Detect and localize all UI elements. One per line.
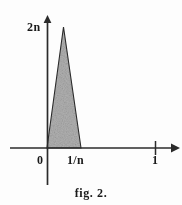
y-axis-label-2n: 2n (27, 21, 41, 33)
x-axis-label-one: 1 (152, 154, 158, 166)
spike-area-fill (44, 24, 86, 150)
figure-container: 2n 0 1/n 1 fig. 2. (0, 0, 182, 205)
figure-caption: fig. 2. (0, 186, 182, 201)
x-axis-label-one-over-n: 1/n (67, 154, 84, 166)
origin-label: 0 (37, 154, 43, 166)
x-axis (10, 144, 180, 153)
y-axis (44, 15, 52, 185)
